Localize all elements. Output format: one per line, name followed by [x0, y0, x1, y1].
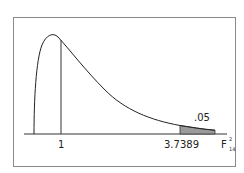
tick-label-one: 1	[58, 140, 64, 150]
tick-label-critical-value: 3.7389	[164, 140, 199, 150]
f-distribution-plot	[0, 0, 244, 173]
axis-superscript: 2	[229, 137, 232, 142]
axis-subscript: 14	[229, 147, 235, 152]
axis-variable-label: F	[221, 140, 227, 150]
tail-area-label: .05	[194, 113, 210, 123]
